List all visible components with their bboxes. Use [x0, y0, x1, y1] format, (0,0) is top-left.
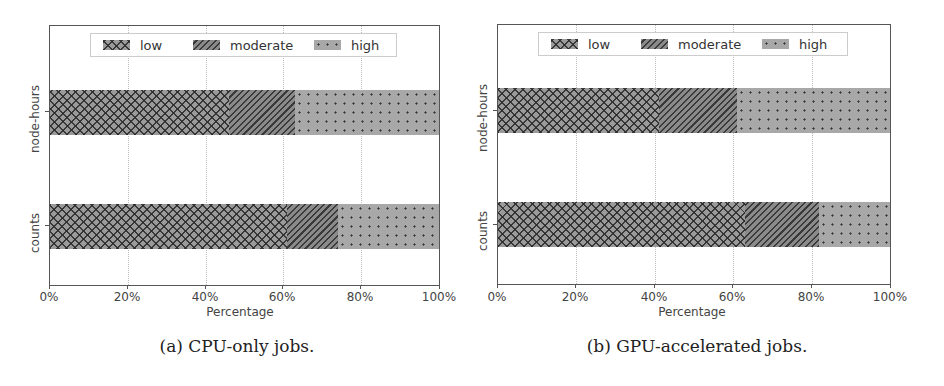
- x-tick: [654, 284, 655, 288]
- bar-segment-high: [819, 202, 890, 247]
- x-tick: [811, 284, 812, 288]
- bar-segment-low: [498, 88, 659, 133]
- figure-caption: (b) GPU-accelerated jobs.: [587, 336, 808, 356]
- bar-segment-moderate: [745, 202, 819, 247]
- legend: low moderate high: [538, 32, 848, 56]
- y-category-label: counts: [476, 211, 490, 251]
- legend-item-high: high: [762, 37, 827, 52]
- panel-gpu-accelerated: low moderate high node-hours counts 0% 2…: [0, 0, 472, 386]
- bar-segment-low: [498, 202, 745, 247]
- x-tick: [575, 284, 576, 288]
- bar-counts: [498, 202, 890, 247]
- bar-segment-moderate: [659, 88, 737, 133]
- x-tick-label: 100%: [873, 290, 907, 304]
- y-tick: [493, 110, 497, 111]
- legend-label: low: [588, 37, 610, 52]
- legend-label: moderate: [678, 37, 741, 52]
- x-axis-title: Percentage: [658, 305, 726, 319]
- legend-label: high: [799, 37, 827, 52]
- legend-item-low: low: [551, 37, 641, 52]
- y-category-label: node-hours: [476, 84, 490, 152]
- x-tick: [497, 284, 498, 288]
- legend-item-moderate: moderate: [641, 37, 762, 52]
- x-tick: [732, 284, 733, 288]
- x-tick: [890, 284, 891, 288]
- moderate-swatch-icon: [641, 39, 668, 49]
- bar-node-hours: [498, 88, 890, 133]
- bar-segment-high: [737, 88, 890, 133]
- x-tick-label: 20%: [562, 290, 589, 304]
- high-swatch-icon: [762, 39, 789, 49]
- x-tick-label: 80%: [798, 290, 825, 304]
- low-swatch-icon: [551, 39, 578, 49]
- x-tick-label: 0%: [487, 290, 506, 304]
- x-tick-label: 60%: [719, 290, 746, 304]
- plot-area: low moderate high: [497, 24, 891, 285]
- y-tick: [493, 224, 497, 225]
- x-tick-label: 40%: [641, 290, 668, 304]
